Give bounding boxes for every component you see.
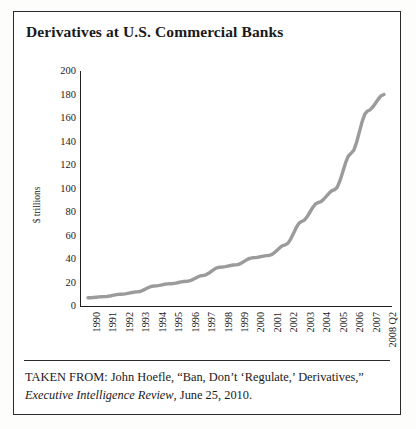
x-axis-tick: 2008 Q2 xyxy=(388,312,398,347)
x-axis-tick: 1999 xyxy=(240,312,250,332)
x-axis-tick: 1991 xyxy=(108,312,118,332)
caption-attribution: TAKEN FROM: John Hoefle, “Ban, Don’t ‘Re… xyxy=(25,370,364,384)
page-title: Derivatives at U.S. Commercial Banks xyxy=(26,23,283,41)
x-axis-tick: 1993 xyxy=(141,312,151,332)
x-axis-tick: 2000 xyxy=(256,312,266,332)
chart-plot-area: $ trillions 200180160140120100806040200 … xyxy=(14,50,400,350)
x-axis-tick: 2004 xyxy=(322,312,332,332)
x-axis-tick: 1994 xyxy=(158,312,168,332)
caption-source-title: Executive Intelligence Review xyxy=(25,388,174,402)
x-axis-tick: 2003 xyxy=(306,312,316,332)
caption-date: , June 25, 2010. xyxy=(174,388,252,402)
x-axis-tick: 1997 xyxy=(207,312,217,332)
x-axis-tick: 1990 xyxy=(92,312,102,332)
series-line-chart xyxy=(14,50,400,350)
x-axis-tick: 2002 xyxy=(289,312,299,332)
x-axis-tick: 2007 xyxy=(372,312,382,332)
x-axis-tick: 1995 xyxy=(174,312,184,332)
x-axis-tick: 1996 xyxy=(191,312,201,332)
x-axis-tick: 2005 xyxy=(339,312,349,332)
x-axis-tick: 2001 xyxy=(273,312,283,332)
caption-divider xyxy=(24,360,390,361)
figure-caption: TAKEN FROM: John Hoefle, “Ban, Don’t ‘Re… xyxy=(25,369,393,404)
x-axis-tick: 1992 xyxy=(125,312,135,332)
figure-page: Derivatives at U.S. Commercial Banks $ t… xyxy=(0,0,416,429)
x-axis-tick: 1998 xyxy=(224,312,234,332)
figure-frame: Derivatives at U.S. Commercial Banks $ t… xyxy=(13,11,401,415)
x-axis-tick: 2006 xyxy=(355,312,365,332)
